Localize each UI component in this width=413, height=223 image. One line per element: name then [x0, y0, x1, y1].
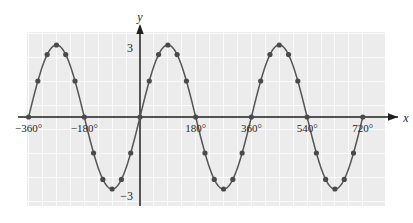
- data-point: [286, 52, 291, 57]
- x-axis-label: x: [402, 111, 409, 125]
- data-point: [360, 114, 365, 119]
- data-point: [128, 150, 133, 155]
- data-point: [267, 52, 272, 57]
- data-point: [305, 114, 310, 119]
- data-point: [351, 150, 356, 155]
- data-point: [110, 186, 115, 191]
- data-point: [342, 177, 347, 182]
- x-axis-arrowhead: [388, 113, 398, 121]
- y-axis-label: y: [136, 10, 143, 24]
- data-point: [156, 52, 161, 57]
- y-tick-label-negative: −3: [120, 189, 133, 203]
- data-point: [249, 114, 254, 119]
- data-point: [240, 150, 245, 155]
- data-point: [175, 52, 180, 57]
- data-point: [119, 177, 124, 182]
- y-axis-arrowhead: [136, 24, 143, 34]
- data-point: [26, 114, 31, 119]
- x-tick-label: −360°: [15, 122, 42, 134]
- data-point: [63, 52, 68, 57]
- data-point: [193, 114, 198, 119]
- data-point: [147, 78, 152, 83]
- data-point: [221, 186, 226, 191]
- data-point: [72, 78, 77, 83]
- plot-background: [27, 32, 385, 206]
- data-point: [202, 150, 207, 155]
- sine-graph-figure: −360°−180°180°360°540°720° 3 −3 y x: [0, 0, 413, 223]
- data-point: [332, 186, 337, 191]
- data-point: [277, 42, 282, 47]
- data-point: [82, 114, 87, 119]
- data-point: [295, 78, 300, 83]
- sine-curve-chart: −360°−180°180°360°540°720° 3 −3 y x: [0, 0, 413, 223]
- data-point: [100, 177, 105, 182]
- x-tick-label: 540°: [297, 122, 318, 134]
- data-point: [45, 52, 50, 57]
- x-tick-label: 360°: [241, 122, 262, 134]
- data-point: [54, 42, 59, 47]
- data-point: [230, 177, 235, 182]
- y-tick-label-positive: 3: [127, 41, 133, 55]
- data-point: [184, 78, 189, 83]
- data-point: [314, 150, 319, 155]
- data-point: [212, 177, 217, 182]
- x-tick-label: −180°: [71, 122, 98, 134]
- data-point: [35, 78, 40, 83]
- x-tick-label: 720°: [352, 122, 373, 134]
- data-point: [323, 177, 328, 182]
- data-point: [165, 42, 170, 47]
- x-tick-label: 180°: [185, 122, 206, 134]
- data-point: [258, 78, 263, 83]
- data-point: [91, 150, 96, 155]
- data-point: [137, 114, 142, 119]
